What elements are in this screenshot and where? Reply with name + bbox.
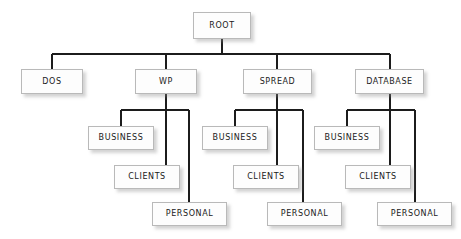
node-database-clients-label: CLIENTS — [359, 173, 397, 181]
node-dos-label: DOS — [42, 78, 61, 86]
node-database-label: DATABASE — [366, 78, 413, 86]
node-database-personal[interactable]: PERSONAL — [377, 202, 452, 226]
node-spread-clients-label: CLIENTS — [247, 173, 285, 181]
directory-tree-diagram: ROOT DOS WP SPREAD DATABASE BUSINESS CLI… — [0, 0, 461, 239]
node-spread[interactable]: SPREAD — [243, 69, 312, 94]
node-spread-business-label: BUSINESS — [213, 134, 258, 142]
node-wp-business-label: BUSINESS — [99, 134, 144, 142]
node-dos[interactable]: DOS — [21, 69, 83, 94]
node-database-clients[interactable]: CLIENTS — [345, 165, 411, 189]
node-spread-label: SPREAD — [260, 78, 296, 86]
node-database-business[interactable]: BUSINESS — [314, 126, 380, 150]
node-root-label: ROOT — [209, 22, 234, 30]
node-spread-clients[interactable]: CLIENTS — [233, 165, 299, 189]
node-database-business-label: BUSINESS — [325, 134, 370, 142]
node-wp-personal-label: PERSONAL — [166, 210, 214, 218]
node-spread-personal-label: PERSONAL — [281, 210, 329, 218]
node-spread-personal[interactable]: PERSONAL — [267, 202, 342, 226]
node-wp[interactable]: WP — [135, 69, 197, 94]
node-wp-label: WP — [159, 78, 173, 86]
node-wp-personal[interactable]: PERSONAL — [152, 202, 227, 226]
node-wp-clients-label: CLIENTS — [128, 173, 166, 181]
node-wp-clients[interactable]: CLIENTS — [114, 165, 180, 189]
node-database-personal-label: PERSONAL — [391, 210, 439, 218]
node-spread-business[interactable]: BUSINESS — [202, 126, 268, 150]
node-root[interactable]: ROOT — [193, 12, 251, 39]
node-wp-business[interactable]: BUSINESS — [88, 126, 154, 150]
node-database[interactable]: DATABASE — [355, 69, 424, 94]
